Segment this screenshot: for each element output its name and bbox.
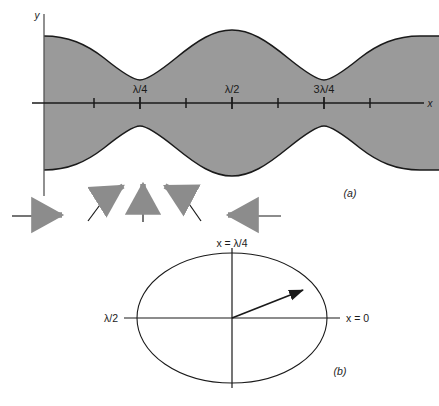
figure-root: λ/4 λ/2 3λ/4 y x [0, 0, 439, 406]
panel-a-label: (a) [344, 187, 357, 199]
ellipse-label-right: x = 0 [346, 312, 369, 324]
x-tick-label-three-quarter: 3λ/4 [314, 83, 335, 95]
arrow-pair-right [228, 215, 281, 216]
arrow-gray-node-right [165, 186, 180, 194]
panel-a-group: λ/4 λ/2 3λ/4 y x [12, 10, 439, 222]
panel-b-label: (b) [334, 365, 347, 377]
arrow-pair-left [12, 215, 62, 216]
x-axis-label: x [427, 98, 434, 109]
phasor-arrow [232, 290, 303, 318]
arrow-pair-node-right [165, 186, 201, 221]
arrow-gray-node-left [107, 186, 123, 196]
x-tick-label-half: λ/2 [225, 83, 240, 95]
x-tick-label-quarter: λ/4 [133, 83, 148, 95]
ellipse-label-top: x = λ/4 [216, 237, 247, 249]
arrow-thin-node-right [178, 188, 201, 221]
ellipse-label-left: λ/2 [104, 312, 118, 324]
panel-b-group: x = λ/4 λ/2 x = 0 (b) [104, 237, 369, 388]
physics-figure-svg: λ/4 λ/2 3λ/4 y x [0, 0, 439, 406]
arrow-pair-node-left [88, 186, 123, 221]
y-axis-label: y [34, 10, 41, 21]
